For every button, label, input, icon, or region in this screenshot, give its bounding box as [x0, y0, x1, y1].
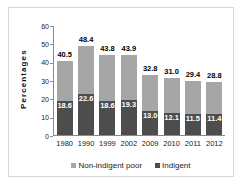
bar-segment-indigent[interactable]: 22.6	[78, 94, 94, 135]
y-tick-mark	[50, 44, 53, 45]
bar-segment-non-indigent-poor[interactable]	[99, 55, 115, 101]
legend-item[interactable]: Non-indigent poor	[71, 161, 142, 170]
x-tick-label: 2012	[204, 139, 225, 148]
x-axis-labels: 19801990199920022009201020112012	[54, 139, 225, 148]
bar-total-label: 43.9	[115, 45, 143, 53]
bar-total-label: 40.5	[51, 51, 79, 59]
x-axis-line	[53, 135, 225, 136]
y-tick-label: 10	[27, 114, 49, 121]
x-tick-label: 2002	[118, 139, 139, 148]
bar-group[interactable]: 28.811.4	[206, 26, 222, 135]
y-tick-label: 0	[27, 133, 49, 140]
y-tick-mark	[50, 63, 53, 64]
x-tick-label: 2010	[161, 139, 182, 148]
bar-segment-non-indigent-poor[interactable]	[142, 75, 158, 111]
bar-group[interactable]: 40.518.6	[57, 26, 73, 135]
bar-indigent-label: 22.6	[75, 95, 97, 103]
bar-indigent-label: 11.5	[182, 115, 204, 123]
bar-segment-non-indigent-poor[interactable]	[121, 55, 137, 100]
bar-group[interactable]: 29.411.5	[185, 26, 201, 135]
bar-indigent-label: 18.6	[54, 102, 76, 110]
y-tick-label: 50	[27, 41, 49, 48]
x-tick-label: 1980	[54, 139, 75, 148]
bar-segment-non-indigent-poor[interactable]	[57, 61, 73, 101]
legend-swatch-icon	[155, 163, 160, 168]
y-tick-label: 40	[27, 59, 49, 66]
y-tick-label: 20	[27, 96, 49, 103]
bar-segment-indigent[interactable]: 11.4	[206, 114, 222, 135]
bar-group[interactable]: 43.919.3	[121, 26, 137, 135]
bar-indigent-label: 18.6	[96, 102, 118, 110]
bar-indigent-label: 11.4	[203, 115, 225, 123]
bar-total-label: 28.8	[200, 72, 228, 80]
bar-segment-indigent[interactable]: 13.0	[142, 111, 158, 135]
y-tick-mark	[50, 118, 53, 119]
y-tick-label: 60	[27, 23, 49, 30]
bar-group[interactable]: 31.012.1	[164, 26, 180, 135]
legend-swatch-icon	[71, 163, 76, 168]
x-tick-label: 2009	[140, 139, 161, 148]
bar-segment-indigent[interactable]: 18.6	[57, 101, 73, 135]
bar-segment-indigent[interactable]: 11.5	[185, 114, 201, 135]
legend-label: Non-indigent poor	[78, 161, 142, 170]
bar-group[interactable]: 48.422.6	[78, 26, 94, 135]
bar-segment-non-indigent-poor[interactable]	[78, 46, 94, 93]
bar-total-label: 48.4	[72, 36, 100, 44]
bar-group[interactable]: 43.818.6	[99, 26, 115, 135]
bar-segment-indigent[interactable]: 12.1	[164, 113, 180, 135]
y-tick-mark	[50, 81, 53, 82]
bar-segment-indigent[interactable]: 19.3	[121, 100, 137, 135]
bar-group[interactable]: 32.813.0	[142, 26, 158, 135]
bar-series-container: 40.518.648.422.643.818.643.919.332.813.0…	[54, 26, 225, 135]
bar-indigent-label: 13.0	[139, 112, 161, 120]
bar-segment-indigent[interactable]: 18.6	[99, 101, 115, 135]
x-tick-label: 2011	[182, 139, 203, 148]
y-tick-label: 30	[27, 78, 49, 85]
legend-item[interactable]: Indigent	[155, 161, 190, 170]
plot-area: 0102030405060 40.518.648.422.643.818.643…	[53, 26, 225, 136]
bar-segment-non-indigent-poor[interactable]	[206, 82, 222, 114]
bar-indigent-label: 19.3	[118, 101, 140, 109]
x-tick-label: 1999	[97, 139, 118, 148]
y-tick-mark	[50, 99, 53, 100]
x-tick-label: 1990	[75, 139, 96, 148]
legend-label: Indigent	[162, 161, 190, 170]
bar-segment-non-indigent-poor[interactable]	[164, 78, 180, 113]
chart-figure: Percentages 0102030405060 40.518.648.422…	[8, 7, 234, 177]
y-tick-mark	[50, 26, 53, 27]
bar-indigent-label: 12.1	[161, 114, 183, 122]
chart-legend: Non-indigent poorIndigent	[39, 161, 223, 170]
y-tick-mark	[50, 136, 53, 137]
bar-segment-non-indigent-poor[interactable]	[185, 81, 201, 114]
